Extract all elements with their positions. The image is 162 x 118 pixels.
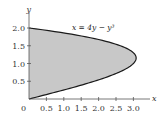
x-tick-label: 2.5 — [110, 104, 123, 113]
x-tick-label: 1.5 — [75, 104, 88, 113]
x-axis-label: x — [152, 94, 157, 103]
x-tick-label: 0.5 — [40, 104, 53, 113]
x-tick-label: 2.0 — [92, 104, 105, 113]
origin-label: 0 — [21, 104, 26, 113]
shaded-region — [29, 28, 136, 99]
y-tick-label: 2.0 — [12, 24, 25, 33]
y-tick-label: 0.5 — [12, 77, 25, 86]
y-axis-ticks: 0.51.01.52.0 — [12, 24, 31, 86]
x-tick-label: 1.0 — [57, 104, 70, 113]
area-chart: 0.51.01.52.02.53.0 0.51.01.52.0 y x 0 x … — [0, 0, 162, 118]
x-tick-label: 3.0 — [127, 104, 140, 113]
y-tick-label: 1.0 — [12, 60, 25, 69]
curve-equation-label: x = 4y − y³ — [72, 23, 115, 32]
y-axis-label: y — [26, 5, 32, 14]
y-tick-label: 1.5 — [12, 42, 25, 51]
